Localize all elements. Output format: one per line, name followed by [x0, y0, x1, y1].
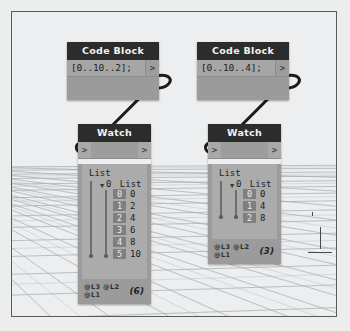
- watch-left-branch-index: 0: [106, 179, 111, 189]
- list-item-index: 3: [113, 225, 126, 235]
- watch-left-branch-label: List: [120, 179, 142, 189]
- list-item-index: 1: [113, 201, 126, 211]
- code-block-right-output-port[interactable]: >: [275, 60, 289, 76]
- list-item-value: 10: [130, 249, 141, 259]
- list-item-value: 8: [130, 237, 135, 247]
- watch-left-footer: @L3 @L2 @L1 (6): [78, 279, 151, 304]
- watch-right-title: Watch: [208, 124, 281, 142]
- code-block-right-body: [197, 77, 289, 100]
- watch-right-ports: > >: [208, 142, 281, 159]
- list-item-index: 0: [113, 189, 126, 199]
- scale-tick-long: [320, 227, 321, 249]
- dynamo-workspace: Code Block [0..10..2]; > Code Block [0..…: [0, 0, 350, 331]
- code-block-right-code[interactable]: [0..10..4];: [197, 60, 275, 76]
- list-item-index: 0: [243, 189, 256, 199]
- watch-right-body: List ▼ 0 List 001428: [208, 164, 281, 239]
- watch-left-preview[interactable]: List ▼ 0 List 0012243648510: [82, 164, 147, 279]
- watch-left-root-label: List: [89, 168, 143, 178]
- watch-left-input-port[interactable]: >: [78, 142, 91, 158]
- list-item-value: 0: [130, 189, 135, 199]
- list-item: 48: [113, 237, 141, 248]
- watch-right-branch-label: List: [250, 179, 272, 189]
- code-block-left-output-port[interactable]: >: [145, 60, 159, 76]
- list-item-value: 8: [260, 213, 265, 223]
- list-item-index: 2: [243, 213, 256, 223]
- list-item-value: 2: [130, 201, 135, 211]
- scale-tick-small: [312, 212, 313, 216]
- list-item: 00: [113, 189, 141, 200]
- code-block-left-title: Code Block: [67, 42, 159, 60]
- list-item: 24: [113, 213, 141, 224]
- list-item: 28: [243, 213, 265, 224]
- watch-right-footer: @L3 @L2 @L1 (3): [208, 239, 281, 264]
- list-item: 00: [243, 189, 265, 200]
- watch-left-levels[interactable]: @L3 @L2 @L1: [84, 283, 130, 299]
- watch-right-root-tree-line: [220, 181, 222, 216]
- watch-right-preview[interactable]: List ▼ 0 List 001428: [212, 164, 277, 239]
- watch-left-body: List ▼ 0 List 0012243648510: [78, 164, 151, 279]
- watch-left-branch-header: 0 List: [106, 179, 142, 189]
- list-item-index: 5: [113, 249, 126, 259]
- node-watch-right[interactable]: Watch > > List ▼ 0 List 001428: [208, 124, 281, 264]
- watch-right-levels[interactable]: @L3 @L2 @L1: [214, 243, 260, 259]
- workspace-frame: Code Block [0..10..2]; > Code Block [0..…: [11, 11, 337, 317]
- code-block-right-title: Code Block: [197, 42, 289, 60]
- watch-left-count: (6): [130, 286, 145, 296]
- scale-tick-dash: [308, 252, 332, 253]
- watch-right-branch-index: 0: [236, 179, 241, 189]
- watch-right-root-label: List: [219, 168, 273, 178]
- watch-right-count: (3): [260, 246, 275, 256]
- list-item-index: 4: [113, 237, 126, 247]
- watch-right-branch-tree-line: [235, 190, 237, 216]
- node-watch-left[interactable]: Watch > > List ▼ 0 List: [78, 124, 151, 304]
- code-block-left-row: [0..10..2]; >: [67, 60, 159, 77]
- watch-left-title: Watch: [78, 124, 151, 142]
- node-code-block-right[interactable]: Code Block [0..10..4]; >: [197, 42, 289, 100]
- list-item: 510: [113, 249, 141, 260]
- watch-right-items: 001428: [243, 189, 265, 225]
- watch-left-items: 0012243648510: [113, 189, 141, 261]
- code-block-right-row: [0..10..4]; >: [197, 60, 289, 77]
- watch-left-branch-tree-dot: [104, 254, 108, 258]
- watch-left-root-tree-dot: [89, 254, 93, 258]
- list-item: 12: [113, 201, 141, 212]
- code-block-left-body: [67, 77, 159, 100]
- watch-right-input-port[interactable]: >: [208, 142, 221, 158]
- list-item-value: 0: [260, 189, 265, 199]
- list-item: 36: [113, 225, 141, 236]
- watch-right-output-port[interactable]: >: [268, 142, 281, 158]
- watch-right-branch-header: 0 List: [236, 179, 272, 189]
- list-item-index: 2: [113, 213, 126, 223]
- watch-right-branch-caret-icon[interactable]: ▼: [230, 183, 234, 190]
- list-item-value: 6: [130, 225, 135, 235]
- watch-left-branch-tree-line: [105, 190, 107, 255]
- watch-right-branch-tree-dot: [234, 215, 238, 219]
- node-code-block-left[interactable]: Code Block [0..10..2]; >: [67, 42, 159, 100]
- list-item: 14: [243, 201, 265, 212]
- watch-left-branch-caret-icon[interactable]: ▼: [100, 183, 104, 190]
- list-item-value: 4: [130, 213, 135, 223]
- list-item-index: 1: [243, 201, 256, 211]
- code-block-left-code[interactable]: [0..10..2];: [67, 60, 145, 76]
- watch-right-root-tree-dot: [219, 215, 223, 219]
- list-item-value: 4: [260, 201, 265, 211]
- watch-left-output-port[interactable]: >: [138, 142, 151, 158]
- watch-left-root-tree-line: [90, 181, 92, 255]
- watch-left-ports: > >: [78, 142, 151, 159]
